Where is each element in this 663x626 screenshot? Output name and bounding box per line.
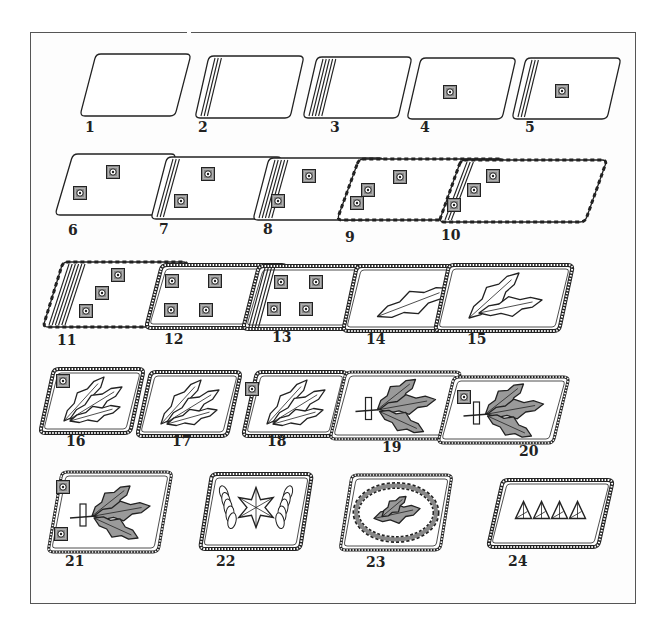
insignia-number-17: 17	[172, 434, 191, 448]
collar-insignia-23	[341, 475, 452, 550]
collar-insignia-3	[304, 57, 411, 118]
insignia-number-15: 15	[467, 332, 486, 346]
insignia-number-8: 8	[263, 222, 273, 236]
insignia-number-13: 13	[272, 330, 291, 344]
insignia-number-9: 9	[345, 230, 355, 244]
insignia-number-22: 22	[216, 554, 235, 568]
insignia-number-20: 20	[519, 444, 538, 458]
collar-insignia-5	[513, 58, 620, 119]
collar-insignia-2	[196, 56, 303, 118]
collar-insignia-24	[489, 480, 612, 547]
collar-insignia-4	[408, 58, 515, 119]
insignia-number-18: 18	[267, 434, 286, 448]
insignia-number-11: 11	[57, 333, 76, 347]
insignia-number-19: 19	[382, 440, 401, 454]
collar-insignia-10	[440, 160, 605, 222]
insignia-number-5: 5	[525, 120, 535, 134]
collar-insignia-17	[138, 372, 240, 436]
insignia-number-1: 1	[85, 120, 95, 134]
insignia-number-7: 7	[159, 222, 169, 236]
collar-insignia-21	[49, 472, 171, 552]
insignia-number-3: 3	[330, 120, 340, 134]
insignia-number-6: 6	[68, 223, 78, 237]
insignia-number-4: 4	[420, 120, 430, 134]
collar-insignia-18	[244, 372, 346, 436]
collar-insignia-15	[436, 265, 572, 331]
collar-insignia-1	[81, 54, 190, 116]
insignia-number-2: 2	[198, 120, 208, 134]
insignia-drawings	[0, 0, 663, 626]
insignia-number-10: 10	[441, 228, 460, 242]
collar-insignia-20	[439, 377, 568, 443]
insignia-number-23: 23	[366, 555, 385, 569]
insignia-number-12: 12	[164, 332, 183, 346]
insignia-number-16: 16	[66, 434, 85, 448]
insignia-number-24: 24	[508, 554, 527, 568]
insignia-number-14: 14	[366, 332, 385, 346]
collar-insignia-22	[201, 474, 312, 549]
collar-insignia-16	[41, 369, 143, 433]
insignia-number-21: 21	[65, 554, 84, 568]
